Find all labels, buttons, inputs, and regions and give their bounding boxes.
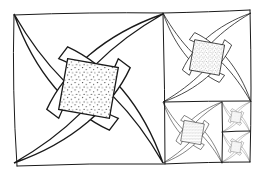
tile-medium	[163, 13, 251, 102]
tile-small	[163, 102, 222, 163]
tile-tiny-top	[222, 102, 250, 132]
tile-large	[14, 14, 163, 163]
tile-tiny-bottom	[222, 132, 250, 162]
spiral-pinwheel-drawing	[0, 0, 261, 178]
